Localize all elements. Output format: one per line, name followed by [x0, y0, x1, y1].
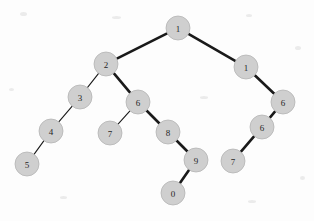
tree-edge — [116, 33, 168, 59]
tree-node[interactable]: 1 — [166, 16, 190, 40]
tree-node-label: 6 — [281, 98, 286, 108]
tree-node-label: 1 — [176, 24, 181, 34]
tree-edge — [269, 110, 276, 118]
node-layer: 12136647865970 — [15, 16, 295, 205]
tree-node-label: 6 — [260, 123, 265, 133]
tree-node[interactable]: 6 — [250, 115, 274, 139]
tree-node[interactable]: 8 — [156, 120, 180, 144]
tree-node[interactable]: 6 — [126, 90, 150, 114]
tree-node-label: 4 — [49, 127, 54, 137]
tree-node-label: 2 — [104, 60, 109, 70]
tree-edge — [113, 72, 131, 93]
tree-node-label: 7 — [108, 129, 113, 139]
tree-edge — [188, 33, 237, 61]
tree-node-label: 9 — [194, 156, 199, 166]
tree-node[interactable]: 2 — [94, 52, 118, 76]
tree-node[interactable]: 6 — [271, 90, 295, 114]
tree-edge — [176, 140, 188, 152]
tree-node[interactable]: 7 — [221, 149, 245, 173]
tree-node[interactable]: 1 — [234, 55, 258, 79]
tree-node-label: 1 — [244, 63, 249, 73]
tree-node[interactable]: 9 — [184, 148, 208, 172]
tree-node-label: 3 — [78, 93, 83, 103]
tree-edge — [146, 110, 160, 124]
binary-tree-diagram: 12136647865970 — [0, 0, 314, 221]
tree-node-label: 6 — [136, 98, 141, 108]
tree-node-label: 7 — [231, 157, 236, 167]
tree-edge — [33, 140, 44, 155]
tree-edge — [240, 135, 255, 152]
tree-edge — [117, 110, 130, 125]
tree-graph: 12136647865970 — [0, 0, 314, 221]
tree-node[interactable]: 0 — [161, 181, 185, 205]
tree-edge — [87, 73, 99, 89]
tree-node[interactable]: 5 — [15, 152, 39, 176]
tree-edge — [58, 105, 73, 122]
tree-node[interactable]: 7 — [98, 121, 122, 145]
tree-node-label: 0 — [171, 189, 176, 199]
tree-edge — [179, 169, 189, 184]
tree-node[interactable]: 3 — [68, 85, 92, 109]
tree-node-label: 5 — [25, 160, 30, 170]
tree-edge — [254, 75, 275, 95]
tree-node-label: 8 — [166, 128, 171, 138]
tree-node[interactable]: 4 — [39, 119, 63, 143]
